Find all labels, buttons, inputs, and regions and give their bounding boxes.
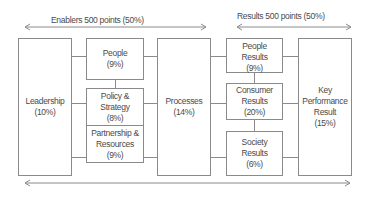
people-results-box: People Results (9%) bbox=[226, 38, 283, 73]
connector-leadership-partnership bbox=[72, 157, 87, 158]
consumer-results-name-line2: Results bbox=[241, 96, 267, 107]
connector-policy-processes bbox=[144, 103, 158, 104]
consumer-results-box: Consumer Results (20%) bbox=[226, 83, 283, 120]
policy-name-line2: Strategy bbox=[100, 102, 129, 113]
connector-people-results-kpr bbox=[283, 56, 298, 57]
kpr-weight: (15%) bbox=[314, 118, 335, 129]
processes-weight: (14%) bbox=[173, 107, 194, 118]
kpr-name-line1: Key bbox=[318, 85, 332, 96]
connector-leadership-people bbox=[72, 56, 87, 57]
innovation-learning-arrow bbox=[25, 180, 350, 186]
partnership-name-line1: Partnership & bbox=[91, 128, 139, 139]
partnership-resources-box: Partnership & Resources (9%) bbox=[86, 125, 144, 163]
kpr-name-line3: Result bbox=[314, 107, 336, 118]
leadership-weight: (10%) bbox=[34, 107, 55, 118]
results-label: Results 500 points (50%) bbox=[237, 11, 325, 21]
processes-box: Processes (14%) bbox=[157, 38, 211, 176]
policy-strategy-box: Policy & Strategy (8%) bbox=[86, 88, 144, 126]
consumer-results-name-line1: Consumer bbox=[236, 85, 273, 96]
connector-people-consumer-results bbox=[254, 73, 255, 83]
consumer-results-weight: (20%) bbox=[244, 107, 265, 118]
connector-leadership-policy bbox=[72, 103, 87, 104]
connector-people-processes bbox=[144, 56, 158, 57]
society-results-weight: (6%) bbox=[246, 159, 263, 170]
connector-consumer-society-results bbox=[254, 120, 255, 131]
society-results-name-line1: Society bbox=[242, 137, 268, 148]
enablers-label: Enablers 500 points (50%) bbox=[51, 15, 144, 25]
leadership-name: Leadership bbox=[25, 96, 64, 107]
policy-weight: (8%) bbox=[107, 113, 124, 124]
connector-consumer-results-kpr bbox=[283, 103, 298, 104]
partnership-name-line2: Resources bbox=[96, 139, 134, 150]
people-box: People (9%) bbox=[86, 38, 144, 80]
connector-processes-consumer-results bbox=[211, 103, 226, 104]
results-arrow bbox=[237, 24, 351, 30]
people-weight: (9%) bbox=[107, 59, 124, 70]
people-results-name-line2: Results bbox=[241, 52, 267, 63]
connector-processes-people-results bbox=[211, 56, 226, 57]
kpr-name-line2: Performance bbox=[302, 96, 347, 107]
connector-processes-society-results bbox=[211, 157, 226, 158]
policy-name-line1: Policy & bbox=[101, 91, 129, 102]
people-results-name-line1: People bbox=[242, 41, 267, 52]
key-performance-result-box: Key Performance Result (15%) bbox=[298, 38, 352, 176]
partnership-weight: (9%) bbox=[107, 150, 124, 161]
connector-partnership-processes bbox=[144, 157, 158, 158]
people-name: People bbox=[103, 48, 128, 59]
processes-name: Processes bbox=[166, 96, 203, 107]
people-results-weight: (9%) bbox=[246, 63, 263, 74]
society-results-box: Society Results (6%) bbox=[226, 131, 283, 176]
connector-society-results-kpr bbox=[283, 157, 298, 158]
leadership-box: Leadership (10%) bbox=[18, 38, 72, 176]
connector-people-policy bbox=[115, 80, 116, 88]
society-results-name-line2: Results bbox=[241, 148, 267, 159]
